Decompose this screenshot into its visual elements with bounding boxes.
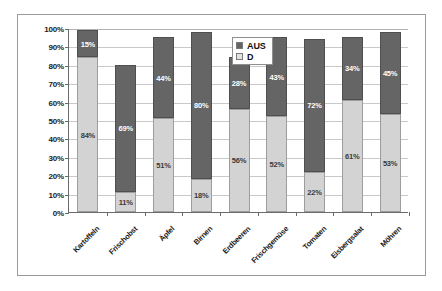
bar-segment-d[interactable]: 22% bbox=[304, 172, 325, 212]
legend-item-aus: AUS bbox=[236, 40, 266, 51]
y-axis-tick-mark bbox=[65, 158, 69, 159]
bar-segment-aus[interactable]: 34% bbox=[342, 37, 363, 100]
bar-segment-aus[interactable]: 80% bbox=[191, 32, 212, 179]
y-axis-tick-mark bbox=[65, 139, 69, 140]
bar-value-label: 80% bbox=[194, 101, 208, 110]
x-axis-tick-mark bbox=[220, 212, 221, 216]
bar-value-label: 43% bbox=[270, 72, 284, 81]
legend-item-d: D bbox=[236, 51, 266, 62]
bar-segment-d[interactable]: 53% bbox=[380, 114, 401, 212]
y-axis-tick-mark bbox=[65, 66, 69, 67]
x-axis-tick-mark bbox=[145, 212, 146, 216]
bar-value-label: 22% bbox=[307, 187, 321, 196]
legend-label-d: D bbox=[247, 52, 253, 62]
y-axis-tick-label: 100% bbox=[44, 25, 64, 34]
bar-value-label: 69% bbox=[118, 124, 132, 133]
bar-value-label: 28% bbox=[232, 79, 246, 88]
y-axis-tick-label: 60% bbox=[49, 98, 64, 107]
bar-value-label: 15% bbox=[81, 39, 95, 48]
y-axis-tick-label: 10% bbox=[49, 190, 64, 199]
bar-value-label: 51% bbox=[156, 161, 170, 170]
bar-segment-aus[interactable]: 28% bbox=[229, 57, 250, 109]
bar-group[interactable]: 18%80% bbox=[191, 28, 212, 212]
bar-value-label: 52% bbox=[270, 160, 284, 169]
bar-value-label: 56% bbox=[232, 156, 246, 165]
bar-value-label: 53% bbox=[383, 159, 397, 168]
bar-value-label: 18% bbox=[194, 191, 208, 200]
x-axis-tick-mark bbox=[182, 212, 183, 216]
bar-segment-d[interactable]: 61% bbox=[342, 100, 363, 212]
y-axis-tick-mark bbox=[65, 103, 69, 104]
bar-segment-d[interactable]: 18% bbox=[191, 179, 212, 212]
chart-card: 100%90%80%70%60%50%40%30%20%10%0%84%15%K… bbox=[17, 14, 426, 276]
bar-group[interactable]: 61%34% bbox=[342, 28, 363, 212]
bar-segment-d[interactable]: 11% bbox=[115, 192, 136, 212]
bar-segment-aus[interactable]: 44% bbox=[153, 37, 174, 118]
x-axis-tick-mark bbox=[107, 212, 108, 216]
bar-group[interactable]: 11%69% bbox=[115, 28, 136, 212]
bar-value-label: 34% bbox=[345, 64, 359, 73]
light-gray-swatch-icon bbox=[236, 53, 243, 60]
x-axis-tick-mark bbox=[371, 212, 372, 216]
y-axis-tick-label: 90% bbox=[49, 43, 64, 52]
bar-group[interactable]: 51%44% bbox=[153, 28, 174, 212]
x-axis-tick-mark bbox=[409, 212, 410, 216]
y-axis-tick-mark bbox=[65, 213, 69, 214]
bar-group[interactable]: 53%45% bbox=[380, 28, 401, 212]
bar-value-label: 72% bbox=[307, 101, 321, 110]
bar-segment-d[interactable]: 52% bbox=[266, 116, 287, 212]
bar-group[interactable]: 84%15% bbox=[77, 28, 98, 212]
bar-value-label: 84% bbox=[81, 130, 95, 139]
bar-segment-aus[interactable]: 45% bbox=[380, 32, 401, 115]
y-axis-tick-label: 20% bbox=[49, 172, 64, 181]
bar-segment-d[interactable]: 56% bbox=[229, 109, 250, 212]
x-axis-tick-mark bbox=[333, 212, 334, 216]
bar-segment-aus[interactable]: 72% bbox=[304, 39, 325, 171]
y-axis-tick-mark bbox=[65, 84, 69, 85]
bar-value-label: 61% bbox=[345, 151, 359, 160]
x-axis-tick-mark bbox=[296, 212, 297, 216]
bar-group[interactable]: 22%72% bbox=[304, 28, 325, 212]
y-axis-tick-label: 40% bbox=[49, 135, 64, 144]
chart-legend: AUS D bbox=[232, 37, 273, 65]
y-axis-tick-mark bbox=[65, 47, 69, 48]
bar-segment-aus[interactable]: 69% bbox=[115, 65, 136, 192]
dark-gray-swatch-icon bbox=[236, 42, 243, 49]
y-axis-tick-mark bbox=[65, 121, 69, 122]
y-axis-tick-label: 0% bbox=[53, 209, 64, 218]
y-axis-tick-label: 30% bbox=[49, 153, 64, 162]
bar-segment-aus[interactable]: 15% bbox=[77, 30, 98, 58]
bar-value-label: 45% bbox=[383, 69, 397, 78]
legend-label-aus: AUS bbox=[247, 41, 266, 51]
gridline bbox=[69, 213, 408, 214]
bar-value-label: 44% bbox=[156, 73, 170, 82]
bar-segment-d[interactable]: 51% bbox=[153, 118, 174, 212]
y-axis-tick-mark bbox=[65, 195, 69, 196]
bar-segment-d[interactable]: 84% bbox=[77, 57, 98, 212]
x-axis-tick-mark bbox=[258, 212, 259, 216]
y-axis-tick-label: 80% bbox=[49, 61, 64, 70]
bar-value-label: 11% bbox=[119, 197, 133, 206]
y-axis-tick-label: 70% bbox=[49, 80, 64, 89]
y-axis-tick-label: 50% bbox=[49, 117, 64, 126]
y-axis-tick-mark bbox=[65, 176, 69, 177]
y-axis-tick-mark bbox=[65, 29, 69, 30]
